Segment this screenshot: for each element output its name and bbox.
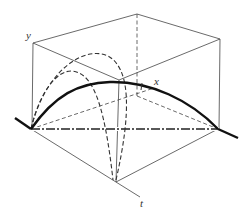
thick-extension-right [218, 129, 238, 138]
small-dashed-arc [31, 71, 113, 180]
y-axis [32, 43, 33, 129]
trajectory-diagram: y x t [0, 0, 249, 215]
y-axis-label: y [25, 29, 31, 41]
box-right-edge [219, 39, 220, 129]
t-axis [31, 129, 140, 197]
box-bottom-right [116, 129, 218, 182]
box-top-front-left [33, 43, 119, 80]
thick-trajectory-curve [31, 82, 218, 129]
box-top-back-left [33, 14, 137, 43]
hidden-base-line [137, 96, 218, 129]
large-dashed-arc [31, 53, 126, 180]
box-top-front-right [119, 39, 220, 80]
thick-extension-left [15, 118, 31, 129]
box-top-back-right [137, 14, 220, 39]
x-axis-label: x [153, 75, 159, 87]
t-axis-label: t [140, 197, 144, 209]
